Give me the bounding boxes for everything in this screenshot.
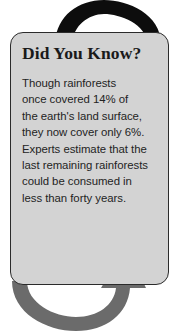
did-you-know-callout: Did You Know? Though rainforests once co… [0, 0, 182, 336]
fact-body-line: the earth's land surface, [22, 108, 157, 124]
page-title: Did You Know? [22, 43, 157, 63]
fact-body-line: they now cover only 6%. [22, 124, 157, 140]
fact-card-content: Did You Know? Though rainforests once co… [11, 33, 168, 206]
fact-body-line: once covered 14% of [22, 91, 157, 107]
fact-body-line: Though rainforests [22, 75, 157, 91]
fact-body-line: last remaining rainforests [22, 157, 157, 173]
fact-body-line: less than forty years. [22, 190, 157, 206]
fact-body-text: Though rainforests once covered 14% of t… [22, 75, 157, 206]
fact-card: Did You Know? Though rainforests once co… [10, 32, 169, 285]
fact-body-line: could be consumed in [22, 173, 157, 189]
fact-body-line: Experts estimate that the [22, 141, 157, 157]
